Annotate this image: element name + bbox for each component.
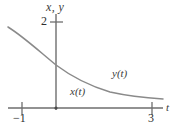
tick-label-t-3: 3 [148, 112, 154, 124]
curve-label-y-of-t: y(t) [112, 68, 127, 79]
graph-figure: x, y t y(t) x(t) 2 −1 3 [0, 0, 178, 128]
axis-label-vertical: x, y [46, 1, 64, 13]
tick-label-t-neg1: −1 [13, 112, 26, 124]
axis-label-horizontal: t [166, 102, 169, 113]
curve-y-of-t [8, 27, 163, 99]
plot-area [0, 0, 178, 128]
curve-label-x-of-t: x(t) [70, 86, 85, 97]
origin-point [54, 106, 57, 109]
tick-label-y-2: 2 [41, 15, 47, 27]
